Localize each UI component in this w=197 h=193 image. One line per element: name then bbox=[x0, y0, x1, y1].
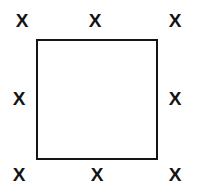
x-mark-top-center: X bbox=[85, 10, 105, 30]
x-mark-top-right: X bbox=[165, 10, 185, 30]
square-outline bbox=[36, 39, 158, 160]
x-mark-middle-right: X bbox=[165, 88, 185, 108]
x-mark-bottom-left: X bbox=[9, 164, 29, 184]
x-mark-bottom-right: X bbox=[165, 164, 185, 184]
x-mark-bottom-center: X bbox=[87, 164, 107, 184]
x-mark-middle-left: X bbox=[9, 88, 29, 108]
figure-canvas: XXXXXXXX bbox=[0, 0, 197, 193]
x-mark-top-left: X bbox=[12, 10, 32, 30]
